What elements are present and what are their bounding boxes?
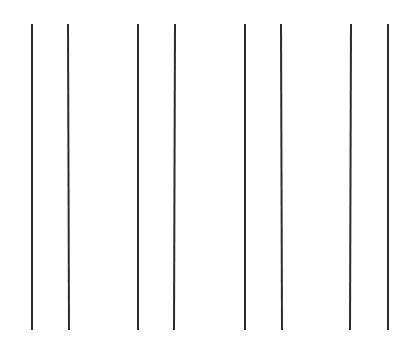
line-8 bbox=[387, 24, 389, 330]
line-6 bbox=[280, 24, 283, 330]
line-5 bbox=[244, 24, 246, 330]
line-2 bbox=[67, 24, 70, 330]
line-7 bbox=[349, 24, 352, 330]
drawing-canvas bbox=[0, 0, 415, 342]
line-1 bbox=[31, 24, 33, 330]
line-4 bbox=[173, 24, 176, 330]
line-3 bbox=[137, 24, 139, 330]
